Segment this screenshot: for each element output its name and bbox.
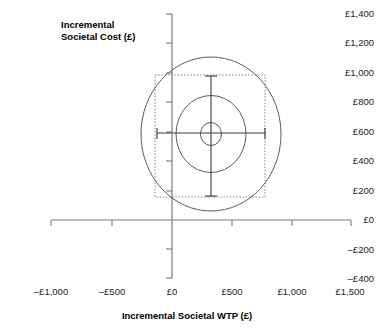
x-axis-ticks	[51, 220, 351, 226]
error-bars	[157, 76, 265, 196]
y-axis-ticks	[166, 14, 172, 278]
